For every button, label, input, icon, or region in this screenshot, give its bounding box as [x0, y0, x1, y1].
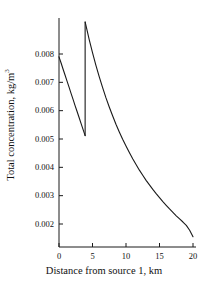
- plot-area: [0, 0, 208, 293]
- data-curve-segment-2: [85, 22, 193, 237]
- x-tick-label: 20: [183, 252, 203, 261]
- y-tick-label: 0.007: [20, 78, 54, 87]
- x-tick-label: 0: [49, 252, 69, 261]
- y-tick-label: 0.005: [20, 135, 54, 144]
- x-axis-title: Distance from source 1, km: [0, 266, 208, 277]
- y-tick-label: 0.006: [20, 106, 54, 115]
- x-tick-label: 10: [116, 252, 136, 261]
- y-tick-label: 0.002: [20, 220, 54, 229]
- y-axis-title: Total concentration, kg/m3: [6, 69, 17, 181]
- x-tick-label: 5: [83, 252, 103, 261]
- chart-figure: 0.0020.0030.0040.0050.0060.0070.008 0510…: [0, 0, 208, 293]
- y-tick-label: 0.004: [20, 163, 54, 172]
- data-curve-segment-1: [59, 57, 85, 136]
- y-axis-title-exponent: 3: [3, 69, 11, 73]
- y-tick-label: 0.003: [20, 191, 54, 200]
- axis-spines: [59, 18, 196, 247]
- y-tick-label: 0.008: [20, 50, 54, 59]
- x-axis-ticks: [59, 243, 193, 247]
- y-axis-ticks: [59, 54, 63, 224]
- y-axis-title-text: Total concentration, kg/m: [5, 73, 16, 181]
- x-tick-label: 15: [150, 252, 170, 261]
- y-axis-title-container: Total concentration, kg/m3: [0, 0, 22, 250]
